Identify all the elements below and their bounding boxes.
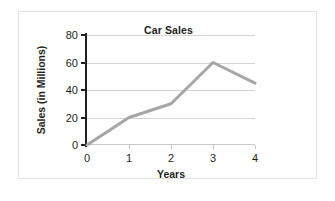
x-axis-tick-label: 2 (168, 152, 174, 164)
y-axis-tick-label: 40 (66, 84, 78, 96)
data-series-line (87, 35, 255, 145)
y-axis-tick-label: 60 (66, 57, 78, 69)
x-axis-tick-label: 4 (252, 152, 258, 164)
x-axis-tick (171, 145, 172, 149)
x-axis-tick (255, 145, 256, 149)
y-axis-tick (81, 117, 86, 119)
x-axis-tick (129, 145, 130, 149)
x-axis-tick-label: 0 (84, 152, 90, 164)
y-axis-tick-label: 0 (72, 139, 78, 151)
x-axis-title: Years (87, 168, 255, 180)
y-axis-tick-label: 20 (66, 112, 78, 124)
plot-area: 020406080 01234 Years (87, 35, 255, 145)
y-axis-tick (81, 34, 86, 36)
x-axis-tick (213, 145, 214, 149)
chart-figure: Car Sales 020406080 01234 Years Sales (i… (0, 0, 335, 201)
y-axis-title: Sales (in Millions) (35, 35, 49, 145)
chart-frame: Car Sales 020406080 01234 Years Sales (i… (18, 11, 317, 179)
y-axis-tick (81, 62, 86, 64)
y-axis-tick (81, 89, 86, 91)
y-axis-tick (81, 144, 86, 146)
x-axis-tick-label: 1 (126, 152, 132, 164)
y-axis-tick-label: 80 (66, 29, 78, 41)
x-axis-tick-label: 3 (210, 152, 216, 164)
